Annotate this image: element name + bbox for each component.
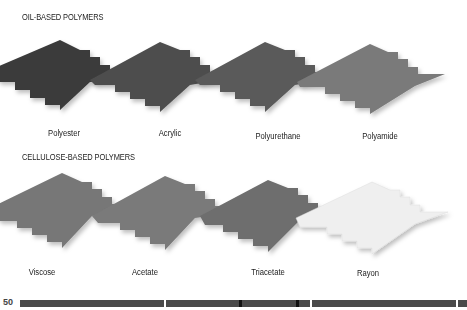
swatch-polyurethane: [195, 42, 325, 112]
label-acrylic: Acrylic: [125, 128, 215, 138]
swatch-acetate: [92, 176, 225, 250]
page-number: 50: [3, 297, 13, 307]
label-polyester: Polyester: [19, 128, 109, 138]
cellulose-polymers-shapes: [0, 168, 467, 263]
label-viscose: Viscose: [0, 267, 87, 277]
label-acetate: Acetate: [100, 267, 190, 277]
footer-bar-mark: [239, 300, 242, 307]
label-rayon: Rayon: [323, 268, 413, 278]
footer-bar: [20, 300, 467, 307]
footer-bar-gap: [310, 300, 312, 307]
footer-bar-gap: [456, 300, 458, 307]
swatch-polyamide: [297, 44, 445, 114]
label-triacetate: Triacetate: [223, 267, 313, 277]
swatch-rayon: [296, 182, 448, 254]
label-polyamide: Polyamide: [335, 131, 425, 141]
swatch-acrylic: [90, 42, 220, 112]
footer-bar-mark: [296, 300, 299, 307]
footer-bar-gap: [164, 300, 166, 307]
section-oil-title: OIL-BASED POLYMERS: [22, 12, 103, 22]
section-cellulose-title: CELLULOSE-BASED POLYMERS: [22, 152, 135, 162]
oil-polymers-shapes: [0, 30, 467, 120]
label-polyurethane: Polyurethane: [233, 131, 323, 141]
